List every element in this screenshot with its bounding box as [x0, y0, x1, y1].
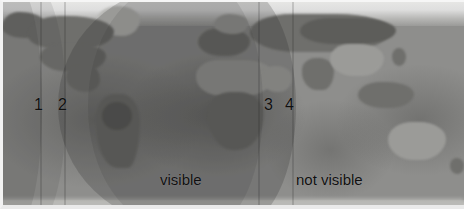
zone-label-not-visible: not visible [296, 172, 363, 187]
landmass-east-asia [330, 44, 384, 76]
satellite-visibility-figure: 1 2 3 4 visible not visible [0, 0, 464, 209]
landmass-japan [392, 48, 406, 66]
landmass-siberia [300, 18, 396, 44]
marker-label-3: 3 [264, 97, 273, 113]
marker-label-1: 1 [34, 97, 43, 113]
landmass-new-zealand [450, 158, 464, 174]
landmass-india [302, 58, 334, 90]
marker-label-4: 4 [285, 97, 294, 113]
visibility-edge-3 [258, 0, 260, 209]
marker-label-2: 2 [58, 97, 67, 113]
landmass-australia [388, 122, 446, 160]
zone-label-visible: visible [160, 172, 202, 187]
landmass-southeast-asia [358, 82, 414, 108]
visibility-footprint-overlay [0, 0, 296, 209]
